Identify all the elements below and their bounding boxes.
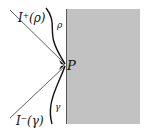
label-rho: ρ [56, 20, 63, 30]
curve-rho [46, 8, 65, 64]
label-point-p: P [66, 58, 76, 73]
label-gamma: γ [55, 102, 61, 112]
label-future-boundary: I⁺(ρ) [17, 11, 46, 25]
curve-gamma [50, 66, 65, 124]
diagram-canvas: I⁺(ρ) ρ P γ I⁻(γ) [0, 0, 151, 137]
label-past-boundary: I⁻(γ) [15, 114, 44, 128]
shaded-region [66, 9, 140, 124]
